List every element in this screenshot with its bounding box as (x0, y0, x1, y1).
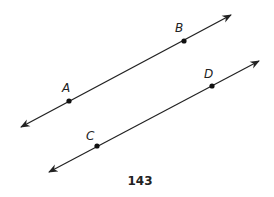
label-c: C (86, 129, 95, 143)
label-d: D (204, 67, 213, 81)
point-b (181, 38, 186, 43)
line-cd (49, 61, 259, 172)
point-a (66, 98, 71, 103)
figure-caption: 143 (127, 174, 152, 188)
point-d (209, 83, 214, 88)
label-b: B (175, 21, 183, 35)
label-a: A (61, 81, 70, 95)
parallel-lines-diagram: A B C D 143 (0, 0, 274, 197)
line-ab (21, 15, 231, 127)
point-c (94, 143, 99, 148)
